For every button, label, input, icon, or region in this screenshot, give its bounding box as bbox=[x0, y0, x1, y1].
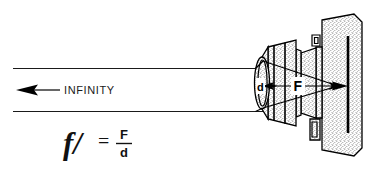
camera-top-knob-icon bbox=[312, 35, 320, 46]
infinity-label: INFINITY bbox=[64, 84, 115, 96]
infinity-marker: INFINITY bbox=[16, 84, 115, 96]
camera-top-knob-inner bbox=[315, 38, 319, 44]
formula-denominator: d bbox=[120, 145, 128, 160]
formula-numerator: F bbox=[120, 127, 128, 142]
f-number-formula: f/ = F d bbox=[63, 126, 132, 161]
aperture-diameter-label: d bbox=[257, 81, 264, 93]
formula-equals: = bbox=[98, 130, 109, 152]
formula-lhs: f/ bbox=[63, 126, 84, 161]
f-number-diagram: INFINITY bbox=[0, 0, 376, 169]
camera-body-left-step bbox=[316, 47, 322, 118]
diagram-canvas: INFINITY bbox=[0, 0, 376, 169]
focal-length-label: F bbox=[294, 78, 303, 94]
